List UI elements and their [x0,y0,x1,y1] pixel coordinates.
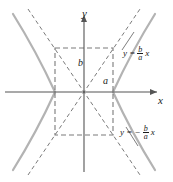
asymptote-negative-equation: y = − b a x [120,125,155,141]
asymptote-negative-numerator: b [143,125,149,132]
semi-conjugate-axis-label: b [78,58,83,68]
asymptote-positive-numerator: b [137,46,143,53]
x-axis-label: x [158,95,163,106]
asymptote-positive-equation: y = b a x [123,46,149,62]
asymptote-positive-lhs: y = [123,49,135,58]
y-axis-label: y [82,8,87,19]
asymptote-negative-lhs: y = − [120,128,141,137]
semi-transverse-axis-label: a [103,76,108,86]
asymptote-negative-variable: x [151,128,155,137]
asymptote-positive-variable: x [145,49,149,58]
asymptote-negative-slope-fraction: b a [143,125,149,141]
hyperbola-figure [0,0,173,182]
asymptote-negative-denominator: a [143,132,149,140]
asymptote-positive-denominator: a [137,53,143,61]
x-axis-arrow-icon [150,89,157,95]
asymptote-positive-slope-fraction: b a [137,46,143,62]
